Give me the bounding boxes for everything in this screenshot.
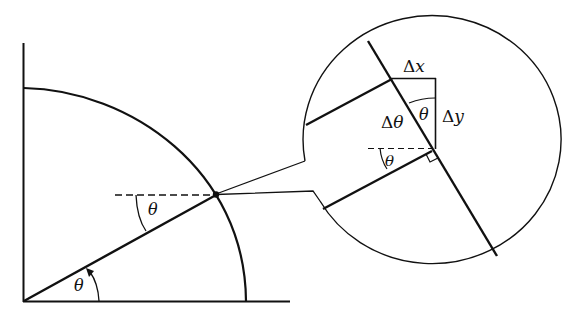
magnifier-callout: [216, 16, 561, 264]
diagram-canvas: θ θ Δx Δy: [0, 0, 587, 316]
inner-angle-label: θ: [419, 105, 429, 124]
delta-x-label: Δx: [403, 56, 425, 76]
main-figure: θ θ: [23, 43, 290, 302]
inset-lower-radius: [323, 151, 432, 209]
lower-angle-label: θ: [385, 152, 394, 170]
quarter-circle-arc: [24, 88, 246, 301]
inset-figure: Δx Δy Δθ θ θ: [306, 41, 497, 256]
inset-circle: [303, 16, 561, 264]
inner-angle-arc: [409, 98, 435, 103]
callout-lower-line: [216, 191, 320, 201]
radius-line: [24, 195, 216, 301]
inset-arc-segment: [368, 41, 497, 256]
point-angle-label: θ: [148, 200, 158, 219]
delta-y-label: Δy: [442, 106, 464, 126]
inset-upper-radius: [306, 79, 392, 125]
origin-angle-label: θ: [74, 276, 84, 295]
origin-angle-arc: [90, 272, 99, 301]
point-angle-arc: [136, 195, 146, 231]
callout-upper-line: [216, 161, 305, 194]
delta-theta-label: Δθ: [381, 112, 404, 132]
